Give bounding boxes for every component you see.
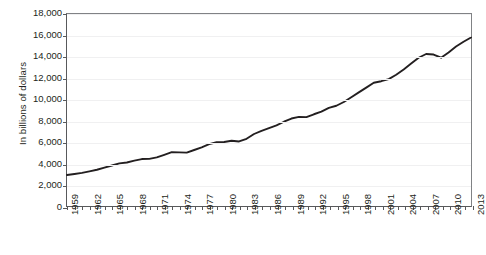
- x-tick-label: 1992: [318, 194, 328, 215]
- x-tick-label: 1962: [93, 194, 103, 215]
- x-tick-label: 1980: [228, 194, 238, 215]
- gdp-line-chart: In billions of dollars 18,00016,00014,00…: [0, 0, 486, 255]
- x-tick-label: 2013: [476, 194, 486, 215]
- x-tick-label: 2010: [453, 194, 463, 215]
- x-tick-label: 1995: [341, 194, 351, 215]
- x-tick-label: 1986: [273, 194, 283, 215]
- x-tick-label: 2001: [386, 194, 396, 215]
- x-tick-label: 1965: [115, 194, 125, 215]
- x-tick-label: 1959: [70, 194, 80, 215]
- x-tick-label: 1998: [363, 194, 373, 215]
- x-tick-label: 1968: [138, 194, 148, 215]
- x-tick-label: 1989: [296, 194, 306, 215]
- x-tick-label: 2007: [431, 194, 441, 215]
- x-tick-label: 1971: [160, 194, 170, 215]
- x-tick-label: 1974: [183, 194, 193, 215]
- x-tick-label: 1977: [205, 194, 215, 215]
- x-axis-tick-labels: 1959196219651968197119741977198019831986…: [0, 0, 486, 255]
- x-tick-label: 2004: [408, 194, 418, 215]
- x-tick-label: 1983: [250, 194, 260, 215]
